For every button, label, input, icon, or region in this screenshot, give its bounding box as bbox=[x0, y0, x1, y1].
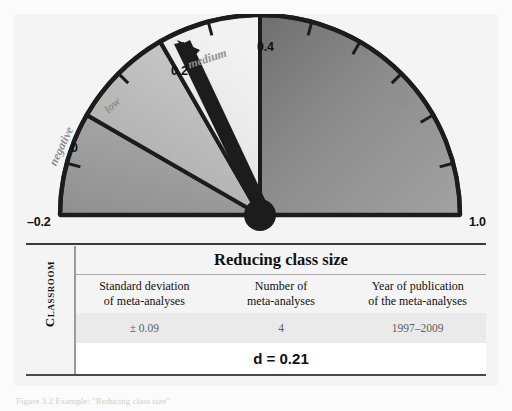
table-header-line1: Number of bbox=[255, 279, 307, 294]
table-header-cell-number: Number of meta-analyses bbox=[213, 275, 350, 313]
gauge-tick-label-min: –0.2 bbox=[27, 215, 51, 229]
table-header-line2: of meta-analyses bbox=[104, 294, 185, 309]
table-body: Reducing class size Standard deviation o… bbox=[76, 246, 486, 374]
table-value-std-dev: ± 0.09 bbox=[76, 313, 213, 343]
figure-root: –0.2 0 0.2 0.4 1.0 negative low medium h… bbox=[0, 0, 512, 411]
figure-caption: Figure 3.2 Example: "Reducing class size… bbox=[16, 396, 486, 406]
table-value-year: 1997–2009 bbox=[349, 313, 486, 343]
table-top-rule bbox=[26, 243, 486, 245]
gauge-chart: –0.2 0 0.2 0.4 1.0 negative low medium h… bbox=[14, 14, 498, 242]
table-category-label: Classroom bbox=[42, 238, 58, 350]
table-bottom-rule bbox=[26, 374, 486, 376]
table-title-row: Reducing class size bbox=[76, 246, 486, 274]
table-value-number: 4 bbox=[213, 313, 350, 343]
table-header-line2: of the meta-analyses bbox=[368, 294, 467, 309]
table-effect-size-row: d = 0.21 bbox=[76, 343, 486, 374]
summary-table: Classroom Reducing class size Standard d… bbox=[26, 243, 486, 377]
gauge-tick-label-zero: 0 bbox=[71, 141, 78, 155]
table-category-cell: Classroom bbox=[26, 246, 74, 374]
table-header-row: Standard deviation of meta-analyses Numb… bbox=[76, 275, 486, 313]
table-title: Reducing class size bbox=[214, 250, 348, 270]
table-value-row: ± 0.09 4 1997–2009 bbox=[76, 313, 486, 343]
gauge-hub bbox=[244, 199, 276, 231]
gauge-svg bbox=[14, 14, 498, 242]
table-header-line1: Year of publication bbox=[372, 279, 464, 294]
table-header-line1: Standard deviation bbox=[99, 279, 189, 294]
gauge-tick-label-point-four: 0.4 bbox=[257, 40, 274, 54]
gauge-tick-label-max: 1.0 bbox=[469, 215, 486, 229]
gauge-sector-high bbox=[260, 15, 460, 215]
effect-size-value: d = 0.21 bbox=[253, 350, 308, 367]
table-header-line2: meta-analyses bbox=[247, 294, 315, 309]
table-header-cell-year: Year of publication of the meta-analyses bbox=[349, 275, 486, 313]
gauge-tick-label-point-two: 0.2 bbox=[171, 64, 188, 78]
table-header-cell-std-dev: Standard deviation of meta-analyses bbox=[76, 275, 213, 313]
